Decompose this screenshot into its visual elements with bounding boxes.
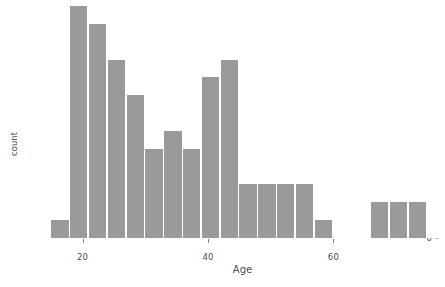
x-tick-label: 20: [77, 252, 88, 262]
histogram-bar: [296, 184, 313, 238]
histogram-bar: [164, 131, 181, 238]
histogram-bar: [108, 60, 125, 238]
histogram-bar: [89, 24, 106, 238]
x-tick-label: 60: [328, 252, 339, 262]
y-axis-label: count: [9, 132, 19, 156]
x-tick-label: 40: [202, 252, 213, 262]
bar-series: [45, 6, 440, 238]
histogram-bar: [127, 95, 144, 238]
histogram-bar: [371, 202, 388, 238]
histogram-bar: [239, 184, 256, 238]
histogram-bar: [258, 184, 275, 238]
histogram-bar: [390, 202, 407, 238]
x-tick-mark: [83, 239, 84, 243]
histogram-bar: [70, 6, 87, 238]
x-tick-mark: [208, 239, 209, 243]
x-tick-mark: [333, 239, 334, 243]
histogram-bar: [51, 220, 68, 238]
histogram-bar: [277, 184, 294, 238]
histogram-bar: [221, 60, 238, 238]
plot-panel: [45, 6, 440, 238]
histogram-bar: [315, 220, 332, 238]
histogram-figure: count 0510 204060 Age: [0, 0, 445, 287]
histogram-bar: [202, 77, 219, 238]
histogram-bar: [145, 149, 162, 238]
histogram-bar: [409, 202, 426, 238]
histogram-bar: [183, 149, 200, 238]
x-axis-label: Age: [45, 264, 440, 275]
